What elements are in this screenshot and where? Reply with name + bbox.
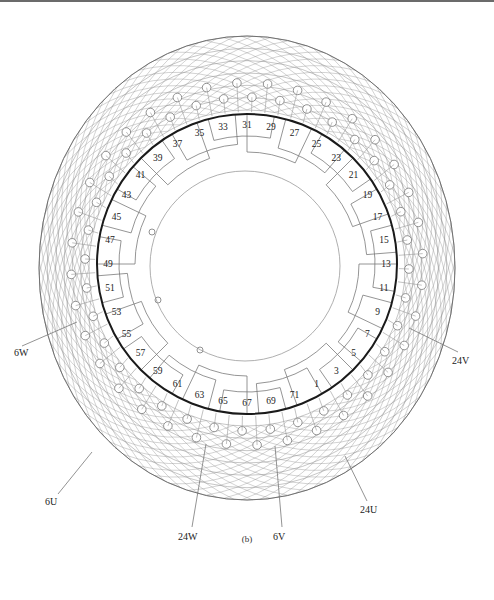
slot-label: 13	[381, 259, 391, 269]
slot-label: 53	[112, 307, 122, 317]
stator-winding-diagram: 1357911131517192123252729313335373941434…	[0, 0, 494, 600]
slot-label: 5	[351, 348, 356, 358]
terminal-lead-line	[275, 446, 282, 527]
figure-caption: (b)	[0, 534, 494, 544]
terminal-label: 6U	[45, 496, 58, 507]
slot-label: 61	[173, 379, 183, 389]
terminal-lead-line	[345, 456, 367, 501]
slot-label: 55	[122, 329, 132, 339]
slot-label: 39	[153, 153, 163, 163]
coil-connections	[97, 114, 397, 414]
slot-label: 71	[290, 390, 300, 400]
slot-label: 1	[314, 379, 319, 389]
slot-label: 67	[242, 398, 252, 408]
slot-label: 29	[266, 122, 276, 132]
slot-label: 59	[153, 366, 163, 376]
slot-label: 35	[195, 128, 205, 138]
slot-label: 9	[375, 307, 380, 317]
slot-label: 25	[312, 139, 322, 149]
slot-label: 41	[136, 170, 146, 180]
slot-label: 51	[105, 283, 115, 293]
slot-label: 11	[379, 283, 388, 293]
slot-label: 57	[136, 348, 146, 358]
slot-label: 19	[363, 190, 373, 200]
slot-label: 23	[332, 153, 342, 163]
slot-label: 21	[349, 170, 359, 180]
end-winding-mesh	[39, 36, 455, 500]
slot-label: 65	[218, 396, 228, 406]
terminal-label: 24U	[360, 504, 378, 515]
slot-label: 27	[290, 128, 300, 138]
terminal-lead-line	[58, 452, 92, 494]
slot-label: 33	[218, 122, 228, 132]
slot-label: 47	[105, 235, 115, 245]
slot-label: 31	[242, 120, 252, 130]
terminal-label: 24V	[452, 355, 470, 366]
terminal-label: 6W	[14, 347, 29, 358]
slot-label: 49	[103, 259, 113, 269]
slot-label: 63	[195, 390, 205, 400]
slot-label: 37	[173, 139, 183, 149]
slot-label: 69	[266, 396, 276, 406]
slot-label: 43	[122, 190, 132, 200]
slot-label: 45	[112, 212, 122, 222]
inner-connection-ring	[150, 171, 340, 361]
slot-label: 7	[365, 329, 370, 339]
slot-label: 17	[373, 212, 383, 222]
slot-label: 15	[379, 235, 389, 245]
slot-label: 3	[334, 366, 339, 376]
